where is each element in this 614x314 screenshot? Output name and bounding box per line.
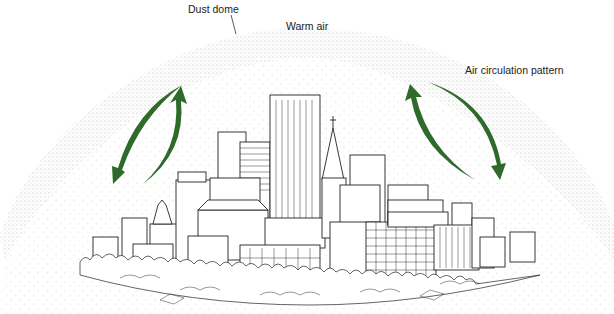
diagram-canvas xyxy=(0,0,614,314)
dust-dome-label: Dust dome xyxy=(188,3,239,15)
warm-air-label: Warm air xyxy=(286,20,328,32)
air-circulation-label: Air circulation pattern xyxy=(465,64,564,76)
dust-dome-diagram: Dust dome Warm air Air circulation patte… xyxy=(0,0,614,314)
